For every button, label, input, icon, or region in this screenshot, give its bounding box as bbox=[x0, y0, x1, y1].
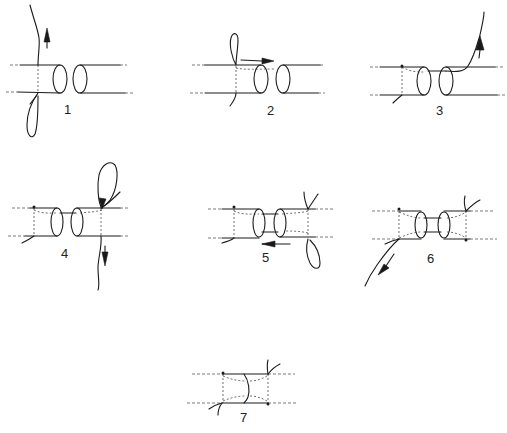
step-2-illustration bbox=[190, 34, 325, 106]
step-1-illustration bbox=[6, 5, 133, 137]
step-label-7: 7 bbox=[240, 410, 247, 425]
step-label-4: 4 bbox=[61, 246, 68, 261]
step-4-illustration bbox=[8, 163, 130, 290]
step-label-3: 3 bbox=[436, 103, 443, 118]
step-3-illustration bbox=[370, 12, 505, 103]
step-7-illustration bbox=[187, 360, 298, 415]
step-label-5: 5 bbox=[262, 250, 269, 265]
step-5-illustration bbox=[208, 192, 335, 268]
anastomosis-diagram bbox=[0, 0, 507, 433]
step-label-1: 1 bbox=[64, 102, 71, 117]
step-label-2: 2 bbox=[267, 103, 274, 118]
step-label-6: 6 bbox=[427, 251, 434, 266]
step-6-illustration bbox=[365, 196, 497, 286]
